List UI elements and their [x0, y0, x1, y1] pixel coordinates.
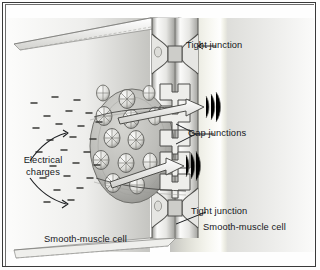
- label-tight-junction-top: Tight junction: [186, 40, 242, 52]
- label-smooth-muscle-cell-right: Smooth-muscle cell: [203, 222, 286, 234]
- label-electrical-charges-line1: Electrical: [12, 155, 74, 167]
- label-smooth-muscle-cell-left: Smooth-muscle cell: [44, 234, 127, 246]
- label-electrical-charges-line2: charges: [12, 167, 74, 179]
- label-tight-junction-bottom: Tight junction: [191, 206, 247, 218]
- figure-container: Tight junction Gap junctions Tight junct…: [0, 0, 320, 270]
- label-gap-junctions: Gap junctions: [188, 128, 246, 140]
